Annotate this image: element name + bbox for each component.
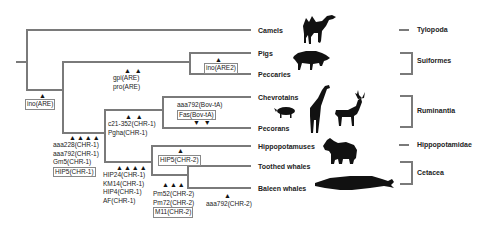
chevrotain-icon <box>274 107 295 118</box>
sine-label: gpi(ARE) <box>113 74 140 83</box>
sine-arrows-bov-ta: ▼ ▼ <box>193 119 212 126</box>
taxon-label-peccaries: Peccaries <box>258 70 291 79</box>
sine-label: pro(ARE) <box>113 83 140 92</box>
phylogenetic-tree <box>0 0 485 228</box>
sine-marker-chr1-base: aaa228(CHR-1) aaa792(CHR-1) Gm5(CHR-1) H… <box>53 141 99 177</box>
sine-label: aaa792(CHR-1) <box>53 150 99 159</box>
sine-arrows-hip-km-af: ▲▲▲▲ <box>116 164 148 171</box>
sine-arrows-chr1-base: ▲▲▲▲ <box>69 134 101 141</box>
sine-label: aaa792(Bov-tA) <box>177 101 223 110</box>
sine-marker-hip-km-af: HIP24(CHR-1) KM14(CHR-1) HIP4(CHR-1) AF(… <box>103 171 145 205</box>
taxon-label-hippopotamuses: Hippopotamuses <box>258 142 315 151</box>
sine-arrows-ino-are: ▲ <box>39 92 47 99</box>
sine-marker-aaa792-chr2: aaa792(CHR-2) <box>206 200 252 209</box>
sine-label: ino(ARE) <box>25 99 55 110</box>
sine-label: HIP5(CHR-2) <box>158 155 201 166</box>
taxon-label-chevrotains: Chevrotains <box>258 93 298 102</box>
giraffe-icon <box>310 85 330 133</box>
sine-label: M11(CHR-2) <box>153 207 193 218</box>
sine-label: Pgha(CHR-1) <box>108 129 156 138</box>
sine-marker-hip5-chr2: HIP5(CHR-2) <box>158 155 201 166</box>
sine-label: HIP5(CHR-1) <box>53 167 96 178</box>
sine-marker-pm-m11: Pm52(CHR-2) Pm72(CHR-2) M11(CHR-2) <box>153 190 194 218</box>
taxon-label-camels: Camels <box>258 26 283 35</box>
deer-icon <box>335 90 365 126</box>
sine-arrows-aaa792-chr2: ▲ <box>224 192 232 199</box>
sine-label: Gm5(CHR-1) <box>53 158 99 167</box>
group-label-ruminantia: Ruminantia <box>417 107 455 114</box>
sine-marker-bov-ta: aaa792(Bov-tA) Fas(Bov-tA) <box>177 101 223 120</box>
pig-icon <box>293 51 330 70</box>
taxon-label-baleen-whales: Baleen whales <box>258 184 306 193</box>
group-label-cetacea: Cetacea <box>417 169 444 176</box>
group-label-tylopoda: Tylopoda <box>417 26 448 33</box>
group-label-hippopotamidae: Hippopotamidae <box>417 141 472 148</box>
sine-label: aaa228(CHR-1) <box>53 141 99 150</box>
sine-marker-gpi-pro: gpi(ARE) pro(ARE) <box>113 74 140 91</box>
sine-marker-ino-are: ino(ARE) <box>25 99 55 110</box>
sine-label: HIP4(CHR-1) <box>103 188 145 197</box>
sine-label: HIP24(CHR-1) <box>103 171 145 180</box>
sine-label: KM14(CHR-1) <box>103 180 145 189</box>
sine-label: Pm72(CHR-2) <box>153 199 194 208</box>
sine-label: c21-352(CHR-1) <box>108 120 156 129</box>
sine-arrows-pm-m11: ▲▲▲ <box>162 181 186 188</box>
hippo-icon <box>323 138 357 164</box>
taxon-label-pigs: Pigs <box>258 49 273 58</box>
sine-arrows-gpi-pro: ▲ ▲ <box>124 67 143 74</box>
sine-arrows-c21-pgha: ▲ ▲ <box>125 113 144 120</box>
sine-marker-ino-are2: ino(ARE2) <box>204 63 238 74</box>
sine-label: Pm52(CHR-2) <box>153 190 194 199</box>
sine-label: aaa792(CHR-2) <box>206 200 252 209</box>
whale-icon <box>315 176 394 190</box>
sine-arrows-hip5-chr2: ▲ <box>177 147 185 154</box>
sine-marker-c21-pgha: c21-352(CHR-1) Pgha(CHR-1) <box>108 120 156 137</box>
camel-icon <box>303 15 336 44</box>
taxon-label-pecorans: Pecorans <box>258 124 290 133</box>
taxon-label-toothed-whales: Toothed whales <box>258 162 310 171</box>
sine-label: AF(CHR-1) <box>103 197 145 206</box>
sine-arrows-ino-are2: ▲ <box>215 56 223 63</box>
group-label-suiformes: Suiformes <box>417 57 451 64</box>
sine-label: ino(ARE2) <box>204 63 238 74</box>
